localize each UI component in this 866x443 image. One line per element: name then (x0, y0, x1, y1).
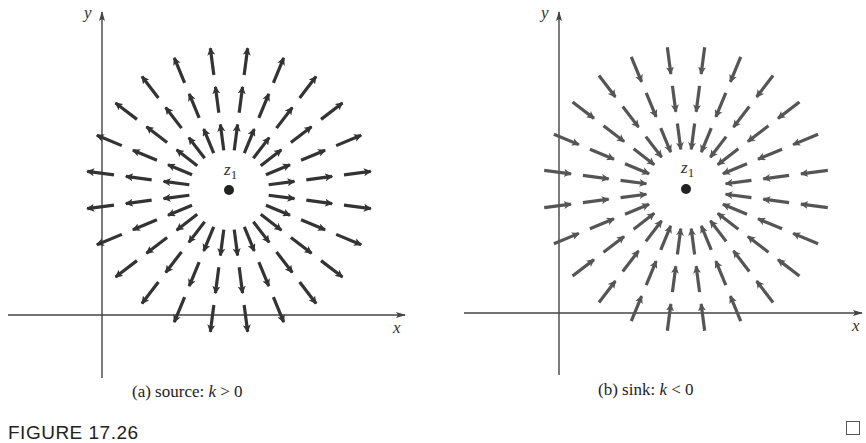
field-arrow (726, 180, 752, 183)
field-arrow (164, 195, 190, 198)
field-arrow (631, 296, 641, 321)
panel-sink (464, 12, 862, 375)
field-arrow (763, 199, 789, 202)
field-arrow (215, 267, 218, 293)
field-arrow (239, 267, 242, 293)
y-axis-label-b: y (541, 3, 549, 23)
field-arrow (718, 149, 739, 165)
field-arrow (259, 94, 269, 118)
field-arrow (168, 205, 192, 215)
field-arrow (273, 58, 283, 83)
field-arrow (97, 135, 122, 145)
field-arrow (261, 150, 282, 166)
field-arrow (266, 165, 290, 175)
field-arrow (142, 77, 158, 98)
field-arrow (748, 126, 769, 142)
field-arrow (126, 176, 152, 179)
field-arrow (758, 149, 782, 159)
field-arrow (646, 93, 656, 117)
field-arrow (146, 127, 167, 143)
field-arrow (573, 102, 594, 118)
field-arrow (291, 237, 312, 253)
field-arrow (174, 58, 184, 83)
field-arrow (634, 149, 655, 165)
point-label-subscript: 1 (688, 165, 695, 180)
field-arrow (116, 261, 137, 277)
field-arrow (244, 129, 254, 153)
field-arrow (793, 233, 818, 243)
field-arrow (696, 86, 699, 112)
field-arrow (677, 124, 680, 150)
field-arrow (723, 204, 747, 214)
field-arrow (306, 200, 332, 203)
field-arrow (603, 126, 624, 142)
field-arrow (661, 226, 671, 250)
field-arrow (164, 181, 190, 184)
caption-a-var: k (208, 382, 216, 401)
field-arrow (778, 260, 799, 276)
field-arrow (701, 226, 711, 250)
field-arrow (220, 125, 223, 151)
field-arrow (189, 138, 205, 159)
field-arrow (301, 150, 325, 160)
field-arrow (116, 103, 137, 119)
field-arrow (166, 107, 182, 128)
field-arrow (757, 76, 773, 97)
field-arrow (554, 233, 579, 243)
point-label-z1-a: z1 (224, 160, 237, 183)
field-arrow (146, 237, 167, 253)
field-arrow (269, 181, 295, 184)
field-arrow (646, 137, 662, 158)
figure-label: FIGURE 17.26 (8, 422, 139, 443)
field-arrow (220, 230, 223, 256)
caption-b-var: k (659, 380, 667, 399)
square-end-of-example-icon (846, 421, 860, 435)
field-arrow (621, 194, 647, 197)
field-arrow (793, 134, 818, 144)
field-arrow (87, 205, 114, 209)
field-arrow (672, 86, 675, 112)
field-arrow (691, 124, 694, 150)
field-arrow (730, 296, 740, 321)
caption-a-suffix: > 0 (216, 382, 243, 401)
point-label-z1-b: z1 (681, 158, 694, 181)
field-arrow (253, 138, 269, 159)
caption-a: (a) source: k > 0 (132, 382, 243, 402)
field-arrow (306, 176, 332, 179)
field-arrow (126, 200, 152, 203)
field-arrow (718, 213, 739, 229)
field-arrow (696, 266, 699, 292)
field-arrow (204, 129, 214, 153)
field-arrow (778, 102, 799, 118)
field-arrow (691, 229, 694, 255)
field-arrow (646, 221, 662, 242)
field-arrow (259, 262, 269, 286)
field-arrow (177, 150, 198, 166)
field-arrow (583, 199, 609, 202)
field-arrow (599, 281, 615, 302)
x-axis-label-a: x (393, 318, 401, 338)
field-arrow (634, 213, 655, 229)
field-arrow (276, 252, 292, 273)
field-arrow (344, 171, 371, 175)
field-arrow (300, 77, 316, 98)
field-arrow (177, 214, 198, 230)
field-arrow (730, 57, 740, 82)
field-arrow (273, 297, 283, 322)
field-arrow (239, 87, 242, 113)
field-arrow (234, 230, 237, 256)
field-arrow (189, 222, 205, 243)
field-arrow (599, 76, 615, 97)
field-arrow (87, 171, 114, 175)
field-arrow (210, 305, 214, 332)
field-arrow (554, 134, 579, 144)
field-arrow (625, 164, 649, 174)
field-arrow (621, 180, 647, 183)
field-arrow (723, 164, 747, 174)
field-arrow (174, 297, 184, 322)
field-arrow (763, 175, 789, 178)
field-arrow (261, 214, 282, 230)
field-arrow (336, 234, 361, 244)
